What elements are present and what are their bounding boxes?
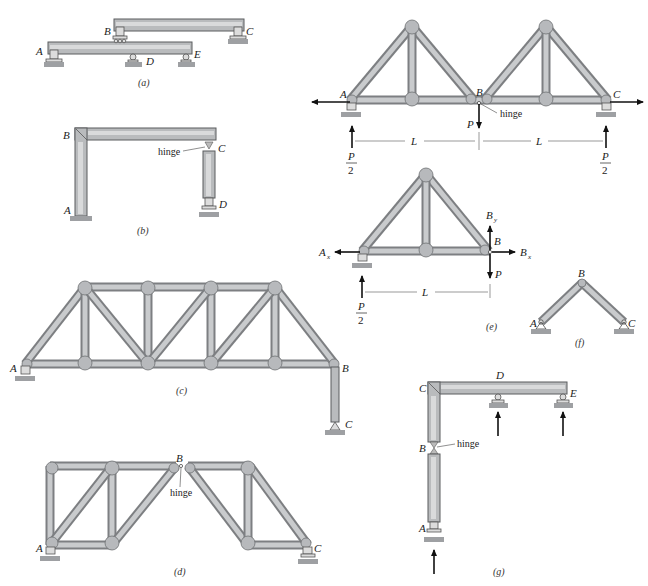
fraction-denominator: 2: [602, 164, 608, 176]
label-b: B: [494, 235, 501, 247]
dim-l-1: L: [410, 135, 417, 147]
label-bx-sub: x: [527, 253, 532, 261]
label-c: C: [218, 142, 226, 154]
caption-d: (d): [174, 566, 186, 578]
truss-members: [50, 466, 308, 545]
label-d: D: [495, 369, 504, 381]
pin-support-a: [352, 254, 372, 268]
pin-support-a: [341, 103, 361, 117]
label-ax-main: A: [318, 246, 326, 258]
label-a: A: [529, 317, 537, 329]
dim-l: L: [421, 286, 428, 298]
subfigure-e-free-body: L A x B y B B x P P 2 (e): [318, 168, 532, 333]
column-bc: [331, 367, 339, 422]
label-d: D: [145, 55, 154, 67]
label-a: A: [63, 204, 71, 216]
label-b: B: [342, 362, 349, 374]
subfigure-e-full: L L A B C hinge P P 2 P 2: [312, 20, 643, 176]
label-c: C: [314, 542, 322, 554]
subfigure-f: B A C (f): [529, 267, 636, 349]
subfigure-b: B C hinge A D (b): [63, 128, 227, 237]
fraction-denominator: 2: [358, 314, 364, 326]
roller-support-d: [199, 198, 219, 217]
label-a: A: [418, 522, 426, 534]
label-a: A: [35, 45, 43, 57]
label-b: B: [578, 267, 585, 279]
label-c: C: [246, 25, 254, 37]
reaction-label-c: P 2: [600, 150, 611, 176]
label-by-main: B: [486, 209, 493, 221]
pin-support-c: [325, 422, 345, 435]
reaction-label-a: P 2: [346, 150, 357, 176]
label-c: C: [419, 382, 427, 394]
label-ax-sub: x: [326, 253, 331, 261]
dim-l-2: L: [535, 135, 542, 147]
subfigure-d: B hinge A C (d): [35, 452, 322, 578]
load-p-label: P: [494, 268, 502, 280]
caption-b: (b): [137, 225, 149, 237]
roller-support-d: [125, 54, 142, 67]
label-b: B: [176, 452, 183, 464]
caption-g: (g): [493, 566, 505, 578]
label-c: C: [345, 418, 353, 430]
dimension-lines: [355, 132, 603, 150]
fraction-numerator: P: [357, 300, 365, 312]
fraction-numerator: P: [347, 150, 355, 162]
label-ax: A x: [318, 246, 331, 261]
label-e: E: [193, 48, 201, 60]
label-a: A: [339, 88, 347, 100]
reaction-label-a: P 2: [356, 300, 367, 326]
label-e: E: [569, 387, 577, 399]
label-a: A: [35, 542, 43, 554]
label-b: B: [104, 25, 111, 37]
roller-support-d: [489, 394, 508, 408]
structures-figure: A B C D E (a) B C hinge A D (b): [0, 0, 648, 586]
subfigure-c: A B C (c): [9, 281, 353, 435]
label-a: A: [9, 362, 17, 374]
truss-members: [25, 287, 335, 364]
hinge-label: hinge: [158, 146, 181, 157]
caption-e: (e): [486, 321, 498, 333]
label-by-sub: y: [493, 216, 498, 224]
label-b: B: [63, 129, 70, 141]
label-b: B: [476, 86, 483, 98]
subfigure-g: C D E B hinge A (g): [418, 369, 577, 578]
roller-support-a: [424, 522, 444, 542]
pin-support-c: [596, 103, 616, 117]
hinge-label: hinge: [500, 108, 523, 119]
hinge-label: hinge: [170, 487, 193, 498]
truss-members: [362, 174, 490, 251]
roller-support-e: [178, 54, 195, 67]
label-b: B: [419, 442, 426, 454]
label-c: C: [628, 317, 636, 329]
caption-c: (c): [176, 385, 188, 397]
label-c: C: [613, 88, 621, 100]
label-d: D: [218, 198, 227, 210]
subfigure-a: A B C D E (a): [35, 19, 254, 89]
caption-f: (f): [575, 337, 585, 349]
label-by: B y: [486, 209, 498, 224]
label-bx: B x: [520, 246, 532, 261]
load-p-label: P: [466, 118, 474, 130]
label-bx-main: B: [520, 246, 527, 258]
caption-a: (a): [138, 77, 150, 89]
fraction-numerator: P: [601, 150, 609, 162]
hinge-label: hinge: [457, 438, 480, 449]
fraction-denominator: 2: [348, 164, 354, 176]
